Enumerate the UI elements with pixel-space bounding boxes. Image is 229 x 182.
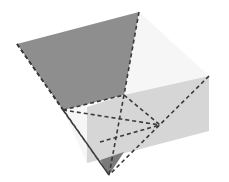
geometric-diagram xyxy=(0,0,229,182)
